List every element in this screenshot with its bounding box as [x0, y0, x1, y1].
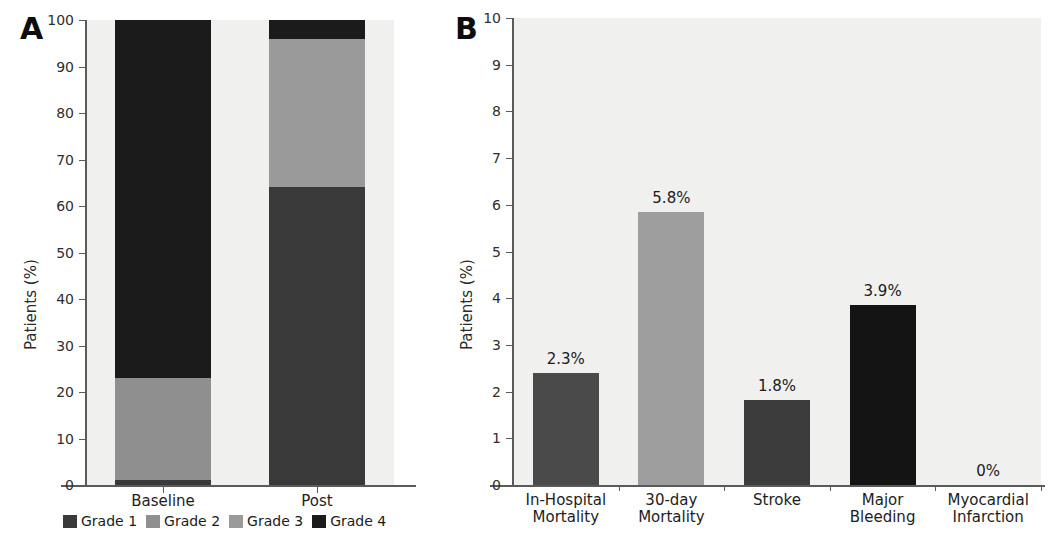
- legend-item[interactable]: Grade 3: [229, 513, 303, 529]
- panel-b-y-tick-label: 7: [464, 151, 501, 165]
- panel-b-x-label: Myocardial Infarction: [926, 492, 1050, 526]
- panel-a-y-tick-mark: [79, 439, 86, 440]
- legend-item[interactable]: Grade 4: [312, 513, 386, 529]
- panel-b-y-tick-mark: [506, 298, 513, 299]
- panel-a-y-tick-mark: [79, 113, 86, 114]
- legend-swatch-icon: [229, 515, 243, 528]
- panel-a-y-tick-mark: [79, 67, 86, 68]
- panel-b-y-tick-label: 2: [464, 385, 501, 399]
- panel-a-y-tick-mark: [79, 392, 86, 393]
- panel-b-bar-value-label: 1.8%: [717, 379, 837, 394]
- panel-a-stacked-bar: [269, 20, 365, 485]
- panel-a-bar-segment: [115, 480, 211, 485]
- panel-a-x-axis-line: [61, 485, 416, 487]
- panel-a-y-tick-label: 100: [30, 13, 74, 27]
- panel-b-x-tick-mark: [619, 486, 620, 491]
- panel-a-y-tick-mark: [79, 206, 86, 207]
- panel-a-y-tick-label: 30: [30, 339, 74, 353]
- panel-b-bar: [533, 373, 599, 485]
- panel-b-bar-value-label: 5.8%: [611, 191, 731, 206]
- panel-a-y-tick-label: 70: [30, 153, 74, 167]
- panel-b-y-tick-label: 10: [464, 11, 501, 25]
- panel-a-y-tick-mark: [79, 299, 86, 300]
- panel-a-y-tick-label: 20: [30, 385, 74, 399]
- panel-b-bar: [850, 305, 916, 485]
- panel-b-y-tick-label: 5: [464, 245, 501, 259]
- figure-container: A Patients (%) 0102030405060708090100 Ba…: [0, 0, 1053, 552]
- panel-b-x-axis-line: [490, 485, 1045, 487]
- panel-a-y-tick-label: 50: [30, 246, 74, 260]
- panel-b-bar-value-label: 2.3%: [506, 352, 626, 367]
- panel-b-y-tick-label: 8: [464, 104, 501, 118]
- panel-a-y-tick-label: 80: [30, 106, 74, 120]
- panel-b-y-tick-mark: [506, 205, 513, 206]
- panel-a-y-tick-label: 10: [30, 432, 74, 446]
- panel-a-y-tick-mark: [79, 485, 86, 486]
- legend-label: Grade 3: [247, 513, 303, 529]
- panel-b-y-tick-mark: [506, 65, 513, 66]
- panel-b-x-tick-mark: [724, 486, 725, 491]
- panel-a-bar-segment: [115, 20, 211, 378]
- panel-b-bar-value-label: 3.9%: [823, 284, 943, 299]
- panel-a-y-tick-mark: [79, 346, 86, 347]
- panel-b-y-tick-mark: [506, 345, 513, 346]
- panel-a-bar-segment: [269, 20, 365, 39]
- legend-item[interactable]: Grade 2: [146, 513, 220, 529]
- panel-b-y-tick-label: 3: [464, 338, 501, 352]
- panel-b-y-tick-mark: [506, 392, 513, 393]
- panel-a-stacked-bar: [115, 20, 211, 485]
- panel-a-y-tick-mark: [79, 160, 86, 161]
- panel-b-bar: [744, 400, 810, 485]
- legend-label: Grade 4: [330, 513, 386, 529]
- legend-label: Grade 2: [164, 513, 220, 529]
- panel-b-bar-value-label: 0%: [928, 464, 1048, 479]
- panel-a: A Patients (%) 0102030405060708090100 Ba…: [0, 0, 440, 552]
- panel-a-y-tick-label: 40: [30, 292, 74, 306]
- panel-b-y-tick-mark: [506, 18, 513, 19]
- panel-b-x-tick-mark: [1041, 486, 1042, 491]
- legend-item[interactable]: Grade 1: [63, 513, 137, 529]
- panel-b-y-tick-mark: [506, 485, 513, 486]
- panel-b-x-tick-mark: [830, 486, 831, 491]
- panel-a-x-label: Post: [237, 493, 397, 510]
- panel-a-y-tick-mark: [79, 20, 86, 21]
- panel-b-y-tick-mark: [506, 438, 513, 439]
- legend-label: Grade 1: [81, 513, 137, 529]
- panel-b-y-tick-mark: [506, 158, 513, 159]
- panel-b-y-tick-label: 9: [464, 58, 501, 72]
- panel-b-bar: [638, 212, 704, 485]
- panel-a-y-tick-mark: [79, 253, 86, 254]
- panel-b-x-tick-mark: [935, 486, 936, 491]
- panel-b-y-tick-mark: [506, 252, 513, 253]
- panel-a-legend: Grade 1Grade 2Grade 3Grade 4: [63, 513, 386, 529]
- panel-b-y-tick-label: 1: [464, 431, 501, 445]
- legend-swatch-icon: [146, 515, 160, 528]
- panel-a-y-tick-label: 0: [30, 478, 74, 492]
- panel-a-bar-segment: [269, 187, 365, 485]
- panel-b-y-tick-mark: [506, 111, 513, 112]
- panel-b-y-tick-label: 4: [464, 291, 501, 305]
- panel-a-x-label: Baseline: [83, 493, 243, 510]
- panel-a-bar-segment: [115, 378, 211, 480]
- legend-swatch-icon: [63, 515, 77, 528]
- panel-a-y-tick-label: 90: [30, 60, 74, 74]
- panel-a-y-tick-label: 60: [30, 199, 74, 213]
- legend-swatch-icon: [312, 515, 326, 528]
- panel-b-y-tick-label: 0: [464, 478, 501, 492]
- panel-b: B Patients (%) 012345678910 2.3%5.8%1.8%…: [440, 0, 1053, 552]
- panel-b-y-tick-label: 6: [464, 198, 501, 212]
- panel-a-bar-segment: [269, 39, 365, 188]
